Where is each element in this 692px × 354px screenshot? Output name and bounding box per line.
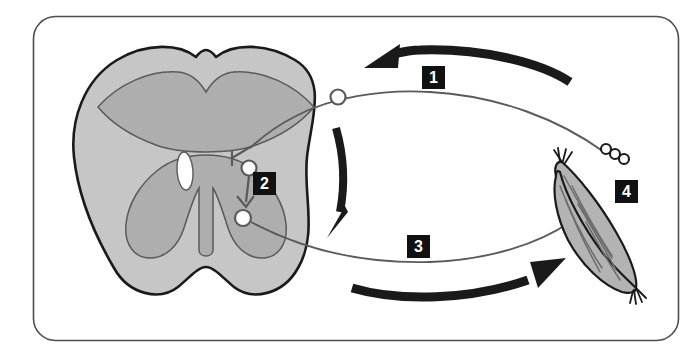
muscle-tendon-bottom bbox=[630, 288, 646, 304]
motor-neuron-soma bbox=[235, 210, 251, 226]
callout-3-text: 3 bbox=[414, 238, 423, 255]
receptor-circle-3 bbox=[619, 154, 629, 164]
callout-label-4[interactable]: 4 bbox=[615, 180, 638, 203]
callout-4-text: 4 bbox=[622, 183, 631, 200]
reflex-arc-illustration bbox=[0, 0, 692, 354]
arrow-sensory-toward-cord bbox=[364, 44, 570, 82]
arrow-descending-within-cord bbox=[327, 128, 348, 238]
spinal-cord-cross-section bbox=[73, 47, 315, 294]
dorsal-root-ganglion-soma bbox=[331, 90, 346, 105]
skeletal-muscle bbox=[554, 148, 646, 304]
callout-label-2[interactable]: 2 bbox=[253, 172, 276, 195]
callout-2-text: 2 bbox=[260, 175, 269, 192]
arrow-motor-toward-muscle bbox=[352, 258, 566, 297]
reflex-arc-figure: 1 2 3 4 bbox=[0, 0, 692, 354]
callout-label-1[interactable]: 1 bbox=[422, 66, 445, 89]
muscle-tendon-top bbox=[554, 148, 572, 163]
callout-label-3[interactable]: 3 bbox=[407, 235, 430, 258]
callout-1-text: 1 bbox=[429, 69, 438, 86]
